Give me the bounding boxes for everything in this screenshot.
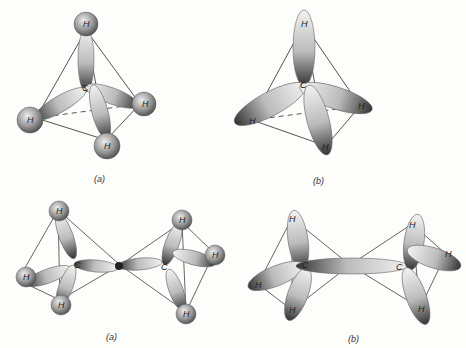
svg-text:H: H (322, 142, 329, 152)
caption-methane-b: (b) (313, 176, 324, 186)
svg-text:H: H (301, 19, 308, 29)
svg-text:H: H (289, 305, 296, 315)
svg-text:H: H (27, 115, 34, 125)
svg-text:H: H (183, 309, 190, 319)
svg-text:H: H (179, 215, 186, 225)
caption-ethane-b: (b) (348, 334, 359, 344)
ethane-a: H H H H H H C C (a) (16, 201, 225, 342)
svg-text:H: H (142, 99, 149, 109)
svg-text:H: H (212, 250, 219, 260)
svg-text:H: H (358, 101, 365, 111)
svg-text:H: H (418, 304, 425, 314)
svg-text:C: C (74, 260, 81, 270)
svg-text:H: H (58, 300, 65, 310)
orbital-diagram: H H H H C (a) H H H H C (b) (0, 0, 466, 348)
svg-text:H: H (289, 214, 296, 224)
caption-ethane-a: (a) (106, 332, 117, 342)
svg-text:H: H (445, 249, 452, 259)
svg-text:H: H (409, 220, 416, 230)
svg-text:H: H (83, 19, 90, 29)
caption-methane-a: (a) (94, 174, 105, 184)
svg-text:C: C (300, 80, 307, 90)
svg-text:H: H (56, 206, 63, 216)
ethane-b: H H H H H H C C (b) (244, 209, 463, 344)
svg-text:H: H (23, 272, 30, 282)
svg-text:H: H (104, 141, 111, 151)
svg-text:H: H (255, 280, 262, 290)
svg-text:C: C (302, 260, 309, 270)
svg-text:H: H (249, 116, 256, 126)
methane-a: H H H H C (a) (17, 12, 156, 184)
methane-b: H H H H C (b) (229, 10, 375, 186)
svg-text:C: C (161, 262, 168, 272)
svg-text:C: C (396, 262, 403, 272)
svg-text:C: C (82, 83, 89, 93)
